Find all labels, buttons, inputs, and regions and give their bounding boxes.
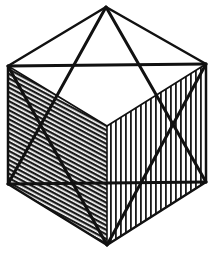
star-line-upper-base [8,64,206,66]
star-line-lower-base [8,182,206,184]
cube-star-diagram [0,0,217,255]
